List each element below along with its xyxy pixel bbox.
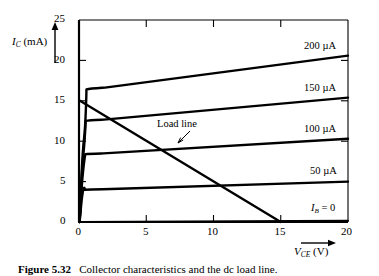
y-axis-subscript: C — [16, 40, 21, 49]
y-tick-label-5: 5 — [60, 175, 66, 186]
curve-label-200ua: 200 µA — [304, 41, 336, 52]
y-axis-unit: (mA) — [23, 35, 47, 47]
y-tick-marks-right — [341, 60, 348, 181]
curve-ib-0 — [80, 221, 349, 222]
load-line-annotation: Load line — [157, 119, 197, 130]
y-tick-label-25: 25 — [54, 13, 65, 24]
figure-caption: Figure 5.32 Collector characteristics an… — [18, 263, 277, 276]
y-tick-label-15: 15 — [54, 94, 65, 105]
x-axis-symbol: V — [294, 245, 301, 257]
x-tick-label-10: 10 — [207, 226, 218, 237]
x-tick-label-20: 20 — [341, 226, 352, 237]
y-tick-label-20: 20 — [54, 54, 65, 65]
ib-equals-zero: = 0 — [321, 202, 335, 213]
curve-ib-200ua — [80, 56, 349, 222]
y-tick-label-10: 10 — [54, 135, 65, 146]
y-axis-title: IC (mA) — [12, 36, 47, 49]
figure-caption-number: 5.32 — [52, 263, 71, 275]
x-tick-label-5: 5 — [143, 226, 149, 237]
curve-label-50ua: 50 µA — [310, 166, 337, 177]
figure-caption-word: Figure — [18, 263, 49, 275]
curve-label-ib-0: IB = 0 — [311, 203, 335, 215]
x-axis-unit: (V) — [313, 245, 328, 257]
x-axis-subscript: CE — [301, 250, 311, 259]
ib-subscript: B — [315, 207, 319, 215]
x-tick-marks-top — [146, 20, 281, 27]
figure-caption-text: Collector characteristics and the dc loa… — [79, 263, 277, 275]
x-axis-title: VCE (V) — [294, 246, 328, 259]
x-tick-label-0: 0 — [76, 226, 82, 237]
load-line-leader — [178, 131, 190, 143]
x-tick-label-15: 15 — [275, 226, 286, 237]
curve-label-100ua: 100 µA — [304, 124, 336, 135]
y-tick-label-0: 0 — [60, 215, 66, 226]
curve-ib-150ua — [80, 98, 349, 222]
curve-label-150ua: 150 µA — [304, 83, 336, 94]
